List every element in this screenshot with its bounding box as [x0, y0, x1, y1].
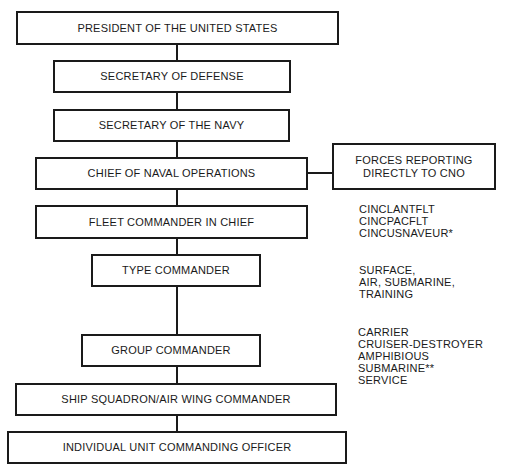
box-type-commander: TYPE COMMANDER — [91, 254, 261, 287]
note-line: CRUISER-DESTROYER — [358, 338, 483, 350]
connector-secnav-cno — [176, 141, 178, 157]
note-line: CINCPACFLT — [359, 215, 453, 227]
note-line: TRAINING — [359, 288, 455, 300]
note-line: CINCLANTFLT — [359, 203, 453, 215]
note-line: SURFACE, — [359, 264, 455, 276]
connector-squadron-individual — [176, 415, 178, 431]
note-line: SERVICE — [358, 374, 483, 386]
note-line: CARRIER — [358, 326, 483, 338]
box-secretary-of-defense: SECRETARY OF DEFENSE — [53, 60, 291, 93]
box-fleet-commander-in-chief: FLEET COMMANDER IN CHIEF — [35, 205, 308, 239]
note-line: AIR, SUBMARINE, — [359, 276, 455, 288]
connector-fleet-type — [176, 238, 178, 254]
connector-president-secdef — [176, 44, 178, 60]
connector-cno-forces — [307, 172, 332, 174]
box-individual-unit-commanding-officer: INDIVIDUAL UNIT COMMANDING OFFICER — [7, 431, 347, 464]
note-group-commands: CARRIER CRUISER-DESTROYER AMPHIBIOUS SUB… — [358, 326, 483, 386]
forces-line-1: FORCES REPORTING — [355, 154, 472, 167]
note-line: AMPHIBIOUS — [358, 350, 483, 362]
connector-cno-fleet — [176, 189, 178, 205]
box-ship-squadron-air-wing-commander: SHIP SQUADRON/AIR WING COMMANDER — [15, 383, 337, 416]
box-group-commander: GROUP COMMANDER — [81, 334, 261, 367]
connector-group-squadron — [176, 366, 178, 383]
box-secretary-of-the-navy: SECRETARY OF THE NAVY — [53, 109, 290, 142]
note-fleet-commands: CINCLANTFLT CINCPACFLT CINCUSNAVEUR* — [359, 203, 453, 239]
connector-type-group — [176, 286, 178, 334]
connector-secdef-secnav — [176, 92, 178, 109]
box-president: PRESIDENT OF THE UNITED STATES — [16, 11, 339, 45]
note-type-commands: SURFACE, AIR, SUBMARINE, TRAINING — [359, 264, 455, 300]
forces-line-2: DIRECTLY TO CNO — [363, 167, 465, 180]
note-line: SUBMARINE** — [358, 362, 483, 374]
box-chief-of-naval-operations: CHIEF OF NAVAL OPERATIONS — [35, 157, 308, 190]
note-line: CINCUSNAVEUR* — [359, 227, 453, 239]
box-forces-reporting-to-cno: FORCES REPORTING DIRECTLY TO CNO — [332, 143, 496, 190]
